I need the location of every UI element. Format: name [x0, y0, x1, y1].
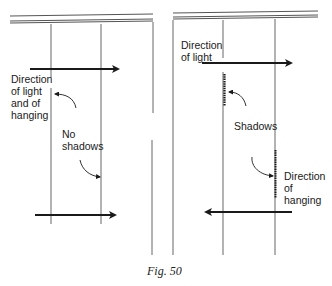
pointer-arrow [80, 160, 100, 177]
diagram-canvas [0, 0, 332, 286]
label-direction-light-hanging: Direction of light and of hanging [11, 73, 52, 121]
pointer-arrow [229, 92, 246, 106]
pointer-arrow [252, 157, 273, 176]
pointer-arrow [55, 94, 76, 108]
label-shadows: Shadows [234, 120, 277, 132]
label-no-shadows: No shadows [62, 128, 103, 152]
label-direction-light: Direction of light [181, 39, 222, 63]
figure-caption: Fig. 50 [147, 264, 182, 279]
ceiling-lines [10, 14, 153, 23]
label-direction-hanging: Direction of hanging [284, 170, 325, 206]
ceiling-lines [173, 11, 318, 19]
